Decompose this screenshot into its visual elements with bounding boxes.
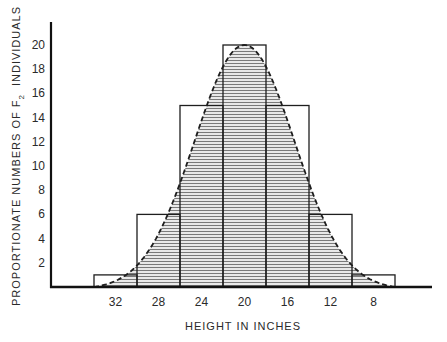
x-tick-32: 32: [109, 295, 123, 309]
x-tick-8: 8: [370, 295, 377, 309]
x-tick-24: 24: [195, 295, 209, 309]
svg-text:PROPORTIONATE NUMBERS OF F2IND: PROPORTIONATE NUMBERS OF F2INDIVIDUALS: [10, 6, 26, 306]
y-tick-14: 14: [32, 111, 46, 125]
y-tick-2: 2: [38, 256, 45, 270]
y-tick-labels: 2468101214161820: [32, 38, 46, 270]
y-axis-label: PROPORTIONATE NUMBERS OF F2INDIVIDUALS: [10, 6, 26, 306]
hatched-curve-area: [94, 45, 395, 287]
y-tick-12: 12: [32, 135, 46, 149]
y-tick-20: 20: [32, 38, 46, 52]
y-tick-10: 10: [32, 159, 46, 173]
x-tick-12: 12: [324, 295, 338, 309]
histogram-chart: 2468101214161820 3228242016128 HEIGHT IN…: [0, 0, 447, 342]
y-tick-18: 18: [32, 62, 46, 76]
x-tick-16: 16: [281, 295, 295, 309]
x-tick-20: 20: [238, 295, 252, 309]
y-tick-4: 4: [38, 232, 45, 246]
y-tick-6: 6: [38, 207, 45, 221]
y-tick-8: 8: [38, 183, 45, 197]
x-tick-28: 28: [152, 295, 166, 309]
x-axis-label: HEIGHT IN INCHES: [185, 320, 301, 332]
y-tick-16: 16: [32, 86, 46, 100]
x-tick-labels: 3228242016128: [109, 295, 377, 309]
